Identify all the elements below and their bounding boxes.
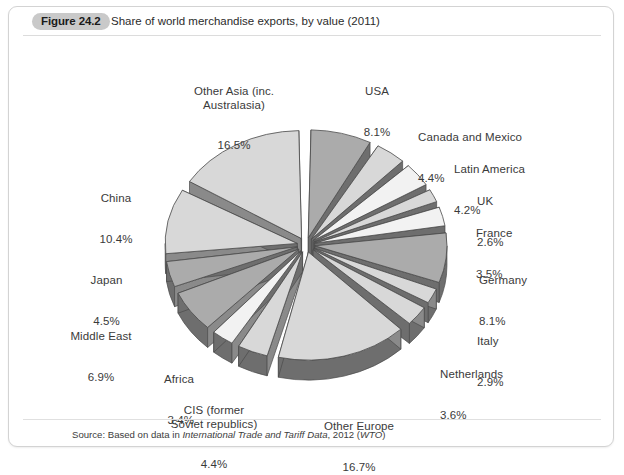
pie-label-middle-east-value: 6.9% bbox=[46, 371, 156, 385]
pie-label-africa-value: 3.4% bbox=[119, 414, 194, 428]
source-note: Source: Based on data in International T… bbox=[72, 429, 385, 440]
source-publication-title: International Trade and Tariff Data bbox=[182, 429, 327, 440]
pie-label-other-asia-name: Other Asia (inc. Australasia) bbox=[164, 85, 304, 112]
pie-label-france-name: France bbox=[476, 227, 586, 241]
pie-label-usa-name: USA bbox=[337, 85, 417, 99]
source-middle: , 2012 ( bbox=[327, 429, 360, 440]
pie-label-cis-value: 4.4% bbox=[149, 458, 279, 472]
pie-label-usa-value: 8.1% bbox=[337, 126, 417, 140]
source-prefix: Source: Based on data in bbox=[72, 429, 182, 440]
figure-header: Figure 24.2 Share of world merchandise e… bbox=[9, 7, 613, 35]
source-organisation: WTO bbox=[360, 429, 382, 440]
figure-panel: Figure 24.2 Share of world merchandise e… bbox=[8, 6, 614, 447]
pie-label-netherlands: Netherlands 3.6% bbox=[440, 341, 560, 449]
pie-label-netherlands-name: Netherlands bbox=[440, 368, 560, 382]
pie-label-other-asia-value: 16.5% bbox=[164, 139, 304, 153]
pie-label-other-europe-value: 16.7% bbox=[299, 461, 419, 475]
source-divider bbox=[23, 419, 601, 420]
figure-title: Share of world merchandise exports, by v… bbox=[111, 14, 380, 29]
pie-label-japan-name: Japan bbox=[64, 274, 149, 288]
pie-label-china: China 10.4% bbox=[71, 165, 161, 273]
pie-label-other-asia: Other Asia (inc. Australasia) 16.5% bbox=[164, 58, 304, 180]
pie-label-china-value: 10.4% bbox=[71, 233, 161, 247]
pie-label-usa: USA 8.1% bbox=[337, 58, 417, 166]
figure-number-badge: Figure 24.2 bbox=[32, 13, 110, 30]
pie-chart: USA 8.1% Canada and Mexico 4.4% Latin Am… bbox=[9, 36, 615, 418]
pie-label-japan-value: 4.5% bbox=[64, 315, 149, 329]
pie-label-germany-name: Germany bbox=[479, 274, 589, 288]
pie-label-china-name: China bbox=[71, 192, 161, 206]
source-suffix: ) bbox=[382, 429, 385, 440]
